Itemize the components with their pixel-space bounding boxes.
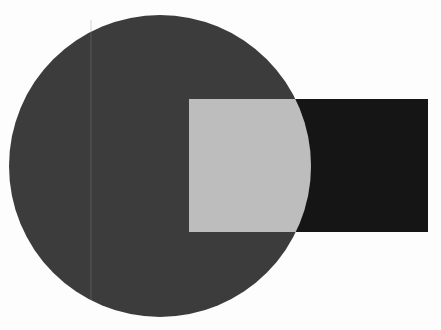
- venn-shapes-figure: [0, 0, 441, 330]
